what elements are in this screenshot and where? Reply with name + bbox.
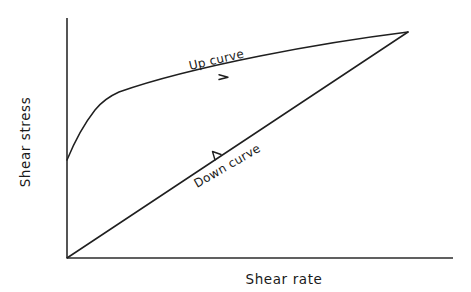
- shear-stress-shear-rate-plot: Up curve Down curve Shear stress Shear r…: [0, 0, 471, 292]
- down-curve-label: Down curve: [192, 141, 263, 190]
- up-curve-arrow-icon: [219, 75, 228, 80]
- down-curve-group: [67, 32, 408, 258]
- down-curve-path: [67, 32, 408, 258]
- figure-root: Up curve Down curve Shear stress Shear r…: [0, 0, 471, 292]
- y-axis-label: Shear stress: [17, 97, 33, 188]
- x-axis-label: Shear rate: [246, 271, 323, 287]
- axes-group: [67, 18, 453, 258]
- up-curve-label: Up curve: [188, 47, 246, 73]
